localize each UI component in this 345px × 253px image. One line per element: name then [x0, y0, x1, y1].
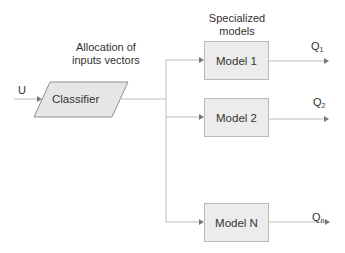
connector-lines: [0, 0, 345, 253]
output-q2-label: Q2: [313, 96, 325, 109]
model-1-label: Model 1: [216, 55, 257, 67]
model-n-box: Model N: [204, 203, 269, 242]
specialized-models-label: Specialized models: [205, 12, 269, 38]
model-n-label: Model N: [215, 217, 258, 229]
input-label: U: [18, 84, 26, 97]
specialized-label-line1: Specialized: [205, 12, 269, 25]
allocation-label-line1: Allocation of: [72, 41, 140, 54]
model-2-box: Model 2: [204, 98, 269, 137]
output-qn-label: Qn: [312, 211, 324, 224]
classifier-label: Classifier: [52, 93, 99, 106]
allocation-label: Allocation of inputs vectors: [72, 41, 140, 67]
specialized-label-line2: models: [205, 25, 269, 38]
output-arrow-icon: [324, 58, 329, 64]
output-arrow-icon: [325, 219, 330, 225]
model-1-box: Model 1: [204, 41, 269, 80]
output-q1-label: Q1: [311, 40, 323, 53]
allocation-label-line2: inputs vectors: [72, 54, 140, 67]
model-2-label: Model 2: [216, 112, 257, 124]
output-arrow-icon: [324, 116, 329, 122]
